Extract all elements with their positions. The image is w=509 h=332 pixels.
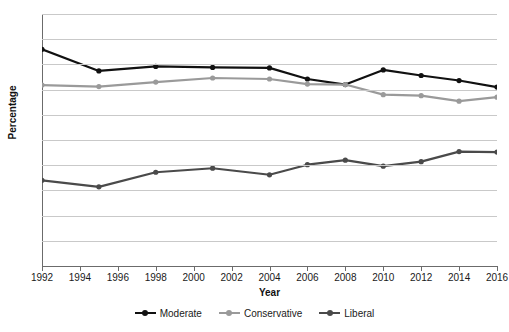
x-axis-tick <box>194 267 195 271</box>
x-axis-tick <box>232 267 233 271</box>
x-axis-tick <box>42 267 43 271</box>
x-axis-tick-label: 2006 <box>296 272 318 283</box>
legend-swatch-icon <box>219 309 240 318</box>
x-axis-tick-label: 1992 <box>31 272 53 283</box>
legend-label: Conservative <box>244 308 302 319</box>
y-axis-tick-labels: 05101520253035404550 <box>0 14 509 266</box>
x-axis-tick <box>421 267 422 271</box>
x-axis-tick-label: 2008 <box>334 272 356 283</box>
y-axis-title: Percentage <box>7 73 18 153</box>
legend-swatch-icon <box>135 309 156 318</box>
x-axis-tick-label: 2012 <box>410 272 432 283</box>
x-axis-tick-label: 1998 <box>145 272 167 283</box>
x-axis-tick <box>497 267 498 271</box>
x-axis-tick <box>383 267 384 271</box>
x-axis-tick-label: 1996 <box>107 272 129 283</box>
legend-item-moderate[interactable]: Moderate <box>135 308 202 319</box>
x-axis-tick-label: 2010 <box>372 272 394 283</box>
x-axis-tick <box>156 267 157 271</box>
legend-label: Liberal <box>344 308 374 319</box>
legend-item-conservative[interactable]: Conservative <box>219 308 302 319</box>
x-axis-tick <box>345 267 346 271</box>
x-axis-tick-label: 2004 <box>258 272 280 283</box>
line-chart: 05101520253035404550 1992199419961998200… <box>0 0 509 332</box>
x-axis-tick <box>307 267 308 271</box>
x-axis-tick-label: 2000 <box>183 272 205 283</box>
x-axis-tick <box>270 267 271 271</box>
x-axis-tick-label: 2002 <box>220 272 242 283</box>
x-axis-tick <box>459 267 460 271</box>
x-axis-ticks <box>42 267 497 271</box>
x-axis-tick <box>118 267 119 271</box>
x-axis-tick-label: 2014 <box>448 272 470 283</box>
legend-swatch-icon <box>319 309 340 318</box>
x-axis-tick <box>80 267 81 271</box>
chart-legend: ModerateConservativeLiberal <box>0 308 509 319</box>
x-axis-tick-label: 1994 <box>69 272 91 283</box>
x-axis-title: Year <box>42 287 497 298</box>
x-axis-tick-label: 2016 <box>486 272 508 283</box>
legend-item-liberal[interactable]: Liberal <box>319 308 374 319</box>
legend-label: Moderate <box>160 308 202 319</box>
x-axis-tick-labels: 1992199419961998200020022004200620082010… <box>42 272 497 286</box>
